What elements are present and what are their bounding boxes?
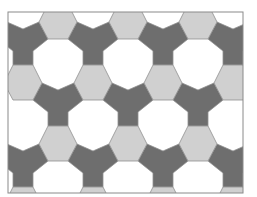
y-shaped-tile (103, 0, 153, 4)
y-shaped-tile (173, 0, 223, 4)
y-shaped-tile (33, 0, 83, 4)
tiling-figure (0, 0, 257, 197)
tile-group (0, 0, 257, 197)
